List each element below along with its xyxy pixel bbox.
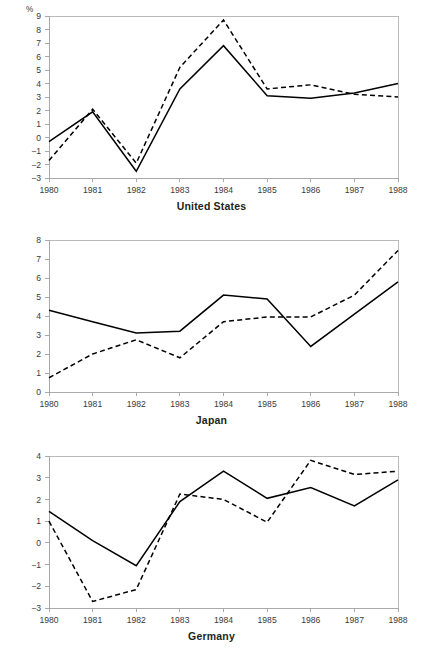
y-tick-label: 7: [36, 38, 41, 48]
plot-frame: [49, 456, 398, 608]
y-tick-label: 4: [36, 451, 41, 461]
x-tick-label: 1985: [258, 399, 277, 409]
plot-frame: [49, 16, 398, 178]
y-tick-label: −2: [31, 160, 41, 170]
series-line-solid: [49, 471, 398, 565]
y-tick-label: 0: [36, 387, 41, 397]
y-tick-label: 3: [36, 330, 41, 340]
chart-svg-germany: −3−2−10123419801981198219831984198519861…: [0, 444, 423, 626]
y-tick-label: 9: [36, 11, 41, 21]
y-tick-label: 6: [36, 273, 41, 283]
chart-panel-united-states: −3−2−10123456789198019811982198319841985…: [0, 0, 423, 196]
x-tick-label: 1981: [83, 399, 102, 409]
x-tick-label: 1987: [345, 399, 364, 409]
x-tick-label: 1987: [345, 615, 364, 625]
chart-title-united-states: United States: [0, 200, 423, 212]
x-tick-label: 1985: [258, 615, 277, 625]
y-tick-label: 3: [36, 92, 41, 102]
y-tick-label: 0: [36, 133, 41, 143]
x-tick-label: 1985: [258, 185, 277, 195]
x-tick-label: 1982: [127, 615, 146, 625]
series-line-solid: [49, 46, 398, 172]
y-tick-label: 1: [36, 516, 41, 526]
chart-title-japan: Japan: [0, 414, 423, 426]
y-tick-label: 3: [36, 473, 41, 483]
y-tick-label: 2: [36, 106, 41, 116]
x-tick-label: 1988: [388, 399, 407, 409]
chart-panel-japan: 0123456781980198119821983198419851986198…: [0, 228, 423, 410]
y-tick-label: 2: [36, 495, 41, 505]
x-tick-label: 1983: [170, 615, 189, 625]
x-tick-label: 1981: [83, 615, 102, 625]
series-line-solid: [49, 282, 398, 347]
y-tick-label: 4: [36, 79, 41, 89]
x-tick-label: 1986: [301, 615, 320, 625]
y-tick-label: 1: [36, 119, 41, 129]
x-tick-label: 1982: [127, 399, 146, 409]
x-tick-label: 1986: [301, 399, 320, 409]
y-tick-label: 0: [36, 538, 41, 548]
series-line-dashed: [49, 460, 398, 601]
series-line-dashed: [49, 250, 398, 377]
y-axis-unit-label: %: [26, 5, 33, 14]
x-tick-label: 1984: [214, 185, 233, 195]
y-tick-label: −3: [31, 603, 41, 613]
y-tick-label: −3: [31, 173, 41, 183]
series-line-dashed: [49, 20, 398, 163]
y-tick-label: 8: [36, 25, 41, 35]
x-tick-label: 1981: [83, 185, 102, 195]
chart-svg-united-states: −3−2−10123456789198019811982198319841985…: [0, 0, 423, 196]
y-tick-label: 6: [36, 52, 41, 62]
x-tick-label: 1987: [345, 185, 364, 195]
x-tick-label: 1980: [39, 185, 58, 195]
chart-panel-germany: −3−2−10123419801981198219831984198519861…: [0, 444, 423, 626]
y-tick-label: 1: [36, 368, 41, 378]
plot-frame: [49, 240, 398, 392]
y-tick-label: 5: [36, 65, 41, 75]
y-tick-label: 8: [36, 235, 41, 245]
y-tick-label: −2: [31, 581, 41, 591]
x-tick-label: 1980: [39, 615, 58, 625]
y-tick-label: 4: [36, 311, 41, 321]
x-tick-label: 1988: [388, 615, 407, 625]
x-tick-label: 1986: [301, 185, 320, 195]
figure-root: −3−2−10123456789198019811982198319841985…: [0, 0, 423, 659]
x-tick-label: 1984: [214, 399, 233, 409]
chart-title-germany: Germany: [0, 630, 423, 642]
x-tick-label: 1988: [388, 185, 407, 195]
x-tick-label: 1984: [214, 615, 233, 625]
y-tick-label: −1: [31, 560, 41, 570]
chart-svg-japan: 0123456781980198119821983198419851986198…: [0, 228, 423, 410]
x-tick-label: 1983: [170, 399, 189, 409]
y-tick-label: 5: [36, 292, 41, 302]
y-tick-label: 2: [36, 349, 41, 359]
x-tick-label: 1983: [170, 185, 189, 195]
y-tick-label: −1: [31, 146, 41, 156]
y-tick-label: 7: [36, 254, 41, 264]
x-tick-label: 1982: [127, 185, 146, 195]
x-tick-label: 1980: [39, 399, 58, 409]
